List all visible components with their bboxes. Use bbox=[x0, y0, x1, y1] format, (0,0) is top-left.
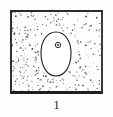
panel-graphic bbox=[12, 12, 101, 91]
figure-root: 1 bbox=[0, 0, 113, 117]
oval-cell-outline bbox=[41, 32, 71, 76]
figure-caption-number: 1 bbox=[0, 97, 113, 112]
nucleus-circle bbox=[55, 42, 60, 47]
diagram-panel bbox=[10, 10, 103, 94]
